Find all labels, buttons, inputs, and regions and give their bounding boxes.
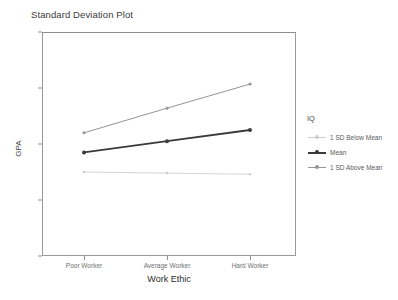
x-tick-label: Average Worker: [122, 262, 212, 269]
x-tick-mark: [84, 256, 85, 260]
legend-key-icon: [307, 133, 327, 143]
x-axis-title: Work Ethic: [42, 274, 296, 284]
standard-deviation-plot: Standard Deviation Plot 01234 GPA Poor W…: [0, 0, 398, 300]
y-tick-mark: [38, 88, 42, 89]
legend-item[interactable]: Mean: [307, 145, 397, 160]
legend-item-label: Mean: [327, 149, 346, 156]
y-tick-mark: [38, 32, 42, 33]
legend-item-label: 1 SD Below Mean: [327, 134, 382, 141]
legend-item[interactable]: 1 SD Above Mean: [307, 160, 397, 175]
y-tick-mark: [38, 144, 42, 145]
x-tick-mark: [250, 256, 251, 260]
y-axis-title: GPA: [14, 119, 23, 179]
legend-key-icon: [307, 148, 327, 158]
legend-item-label: 1 SD Above Mean: [327, 164, 382, 171]
x-tick-mark: [167, 256, 168, 260]
legend: IQ 1 SD Below MeanMean1 SD Above Mean: [307, 114, 397, 175]
y-tick-mark: [38, 200, 42, 201]
legend-title: IQ: [307, 114, 397, 123]
chart-title: Standard Deviation Plot: [31, 9, 133, 20]
x-tick-label: Hard Worker: [205, 262, 295, 269]
plot-area: [42, 32, 296, 256]
x-tick-label: Poor Worker: [39, 262, 129, 269]
legend-key-icon: [307, 163, 327, 173]
legend-item[interactable]: 1 SD Below Mean: [307, 130, 397, 145]
y-tick-mark: [38, 256, 42, 257]
